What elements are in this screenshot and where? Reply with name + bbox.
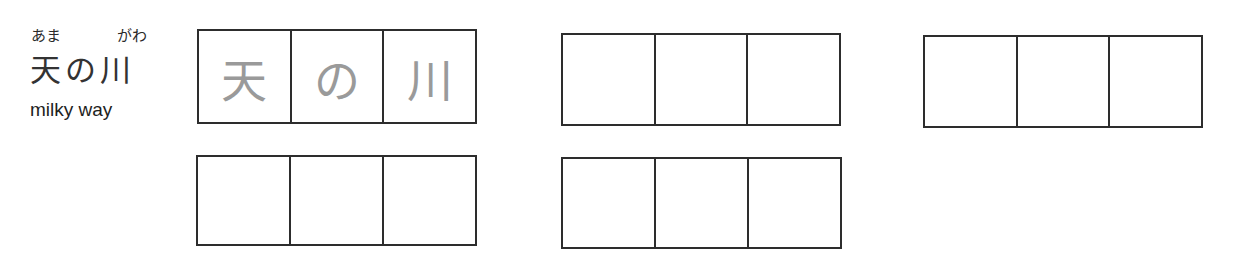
trace-cell[interactable]: の <box>292 31 385 122</box>
practice-cell[interactable] <box>384 157 475 244</box>
practice-cell[interactable] <box>1018 37 1111 126</box>
practice-box-group <box>561 157 842 249</box>
practice-cell[interactable] <box>1110 37 1201 126</box>
vocab-meaning: milky way <box>30 98 112 122</box>
practice-cell[interactable] <box>656 159 749 247</box>
furigana-ama: あま <box>31 27 61 45</box>
vocab-word: 天の川 <box>30 51 135 89</box>
practice-box-group-trace: 天 の 川 <box>197 29 477 124</box>
trace-cell[interactable]: 川 <box>384 31 475 122</box>
vocab-label: あま がわ 天の川 milky way <box>0 0 180 140</box>
furigana-gawa: がわ <box>117 27 147 45</box>
practice-cell[interactable] <box>563 159 656 247</box>
practice-box-group <box>561 33 841 126</box>
practice-cell[interactable] <box>925 37 1018 126</box>
practice-cell[interactable] <box>749 159 840 247</box>
practice-cell[interactable] <box>198 157 291 244</box>
practice-box-group <box>923 35 1203 128</box>
practice-cell[interactable] <box>291 157 384 244</box>
practice-box-group <box>196 155 477 246</box>
trace-cell[interactable]: 天 <box>199 31 292 122</box>
practice-cell[interactable] <box>656 35 749 124</box>
practice-cell[interactable] <box>563 35 656 124</box>
practice-cell[interactable] <box>748 35 839 124</box>
